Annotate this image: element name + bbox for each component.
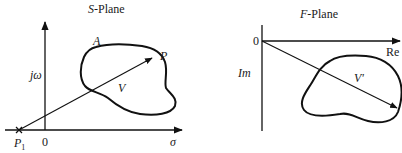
s-plane-vector-v-label: V xyxy=(118,81,127,95)
s-plane: S-Plane jω A P V 0 P1 σ xyxy=(5,2,182,152)
f-plane: F-Plane 0 Re Im V' xyxy=(237,7,402,131)
s-plane-contour-label-a: A xyxy=(92,34,101,48)
f-plane-contour xyxy=(302,56,402,123)
s-plane-p1-label: P1 xyxy=(13,136,25,152)
s-plane-title: S-Plane xyxy=(88,2,125,16)
f-plane-re-label: Re xyxy=(386,45,399,59)
f-plane-im-label: Im xyxy=(237,66,251,80)
s-plane-sigma-label: σ xyxy=(170,135,177,149)
f-plane-origin-label: 0 xyxy=(253,34,259,48)
f-plane-title: F-Plane xyxy=(299,7,338,21)
s-plane-jw-label: jω xyxy=(28,68,42,82)
s-plane-origin-label: 0 xyxy=(42,135,48,149)
s-plane-f-plane-mapping-diagram: S-Plane jω A P V 0 P1 σ F-Plane 0 xyxy=(0,0,402,153)
f-plane-vector-v-prime xyxy=(262,41,397,108)
f-plane-vector-v-prime-label: V' xyxy=(354,71,364,85)
s-plane-point-p-label: P xyxy=(159,49,168,63)
